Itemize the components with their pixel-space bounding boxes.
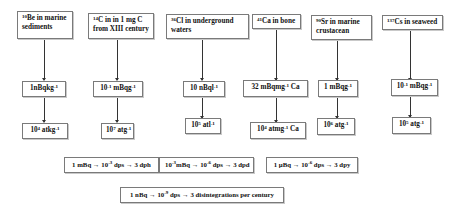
atoms-box-cl36: 105 atl-1: [185, 118, 221, 134]
arrow-down: [202, 40, 203, 80]
source-label: C in in 1 mg C from XIII century: [93, 16, 149, 33]
arrow-down: [117, 98, 118, 122]
source-box-c14: 14C in in 1 mg C from XIII century: [88, 13, 154, 39]
conversion-text: dps → 3 dpd: [211, 161, 250, 168]
arrow-down: [337, 41, 338, 80]
exponent: -1: [214, 84, 218, 89]
arrow-down: [44, 98, 45, 122]
atoms-unit: atg: [409, 120, 420, 128]
atoms-box-cs137: 105 atg-1: [392, 117, 431, 134]
conversion-box-ubq: 1 µBq → 10-6 dps → 3 dpy: [266, 157, 358, 173]
source-box-cl36: 36Cl in underground waters: [166, 14, 249, 39]
exponent: -1: [132, 84, 136, 89]
atoms-box-ca41: 104 atmg-1 Ca: [250, 122, 306, 139]
atoms-value: 10: [399, 120, 406, 128]
exponent: -1: [428, 82, 432, 87]
source-label: Be in marine sediments: [22, 14, 67, 31]
conversion-box-mbq: 1 mBq → 10-3 dps → 3 dph: [64, 157, 159, 173]
atoms-value: 10: [323, 121, 330, 129]
arrow-down: [276, 98, 277, 122]
activity-value: 1 mBqg: [324, 83, 348, 91]
conversion-text: dps → 3 disintegrations per century: [168, 191, 274, 198]
activity-box-c14: 10-1 mBqg-1: [93, 81, 143, 97]
activity-value: 10: [397, 82, 404, 90]
atoms-unit: atkg: [40, 126, 55, 134]
conversion-box-nbq: 1 nBq → 10-9 dps → 3 disintegrations per…: [120, 187, 284, 203]
atoms-box-be10: 104 atkg-1: [22, 123, 68, 139]
exponent: -1: [55, 126, 59, 131]
activity-value: 1nBqkg: [30, 84, 54, 92]
activity-unit: mBqg: [408, 82, 428, 90]
exponent: -1: [54, 84, 58, 89]
atoms-unit: atl: [201, 121, 211, 129]
isotope-mass: 137: [387, 18, 395, 23]
arrow-down: [410, 97, 411, 117]
atoms-box-sr90: 106 atg-1: [317, 118, 355, 135]
conversion-text: 1 mBq → 10: [72, 161, 108, 168]
conversion-text: 1 nBq → 10: [130, 191, 164, 198]
exponent: -1: [420, 120, 424, 125]
source-label: Cs in seaweed: [395, 18, 438, 26]
atoms-unit: atmg: [267, 125, 284, 133]
activity-box-sr90: 1 mBqg-1: [318, 80, 358, 97]
arrow-down: [410, 31, 411, 80]
atoms-unit: atg: [333, 121, 344, 129]
activity-box-cl36: 10 nBql-1: [183, 81, 225, 97]
source-box-be10: 10Be in marine sediments: [17, 11, 73, 39]
arrow-down: [202, 98, 203, 118]
activity-unit: Ca: [289, 83, 300, 91]
arrow-down: [117, 40, 118, 80]
conversion-text: dps → 3 dph: [112, 161, 151, 168]
conversion-text: dps → 3 dpy: [312, 161, 350, 168]
source-label: Ca in bone: [262, 17, 295, 25]
conversion-text: 10: [165, 161, 172, 168]
conversion-box-10-3mbq: 10-3mBq → 10-6 dps → 3 dpd: [159, 157, 254, 173]
conversion-text: mBq → 10: [176, 161, 207, 168]
conversion-text: 1 µBq → 10: [274, 161, 308, 168]
arrow-down: [276, 30, 277, 80]
atoms-value: 10: [30, 126, 37, 134]
activity-box-be10: 1nBqkg-1: [22, 81, 66, 97]
atoms-box-c14: 107 atg-1: [101, 123, 134, 139]
exponent: -1: [127, 126, 131, 131]
source-label: Sr in marine crustacean: [316, 18, 360, 35]
source-label: Cl in underground waters: [171, 17, 233, 34]
activity-value: 10 nBql: [190, 84, 214, 92]
exponent: -1: [348, 83, 352, 88]
exponent: -1: [211, 121, 215, 126]
atoms-unit-suffix: Ca: [288, 125, 299, 133]
atoms-unit: atg: [116, 126, 127, 134]
activity-unit: mBqg: [112, 84, 132, 92]
arrow-down: [44, 40, 45, 80]
source-box-ca41: 41Ca in bone: [252, 14, 301, 29]
activity-box-ca41: 32 mBqmg-1 Ca: [243, 80, 308, 97]
exponent: -1: [344, 121, 348, 126]
activity-box-cs137: 10-1 mBqg-1: [391, 79, 438, 96]
activity-value: 32 mBqmg: [251, 83, 284, 91]
source-box-cs137: 137Cs in seaweed: [382, 15, 443, 30]
source-box-sr90: 90Sr in marine crustacean: [311, 15, 372, 40]
arrow-down: [337, 98, 338, 118]
